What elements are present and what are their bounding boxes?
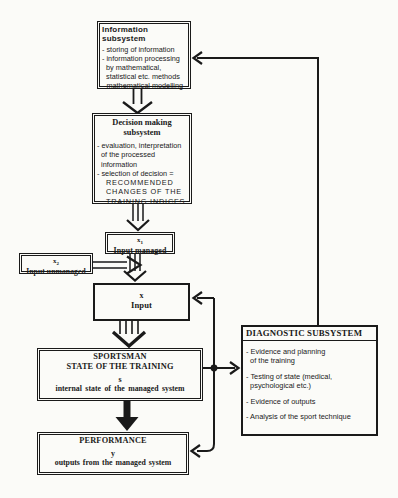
diagnostic-subsystem-title: DIAGNOSTIC SUBSYSTEM [243,327,376,341]
information-subsystem-items: - storing of information - information p… [102,45,188,91]
information-subsystem-title: Information subsystem [102,25,188,43]
performance-caption: outputs from the managed system [38,458,188,468]
arrow-input-unmanaged-to-input [93,257,141,274]
input-unmanaged-variable: x2 [20,257,92,267]
decision-item-recommended: RECOMMENDED CHANGES OF THE TRAINING INDI… [97,178,191,206]
input-box: x Input [93,283,190,321]
performance-variable: y [38,450,188,458]
arrow-decision-to-input-managed [127,204,149,230]
input-unmanaged-box: x2 Input unmanaged [19,253,93,274]
arrow-information-to-decision [123,89,152,113]
decision-item-evaluation: - evaluation, interpretation of the proc… [97,141,191,169]
input-label: Input [95,300,188,311]
decision-making-subsystem-box: Decision making subsystem - evaluation, … [92,113,192,204]
performance-title: PERFORMANCE [38,436,188,446]
input-managed-box: x1 Input managed [105,232,175,254]
junction-dot [211,365,218,372]
decision-making-items: - evaluation, interpretation of the proc… [93,141,191,206]
input-managed-label: Input managed [106,246,174,256]
decision-item-selection: - selection of decision = [97,169,191,178]
sportsman-box: SPORTSMAN STATE OF THE TRAINING s intern… [37,348,203,401]
input-unmanaged-label: Input unmanaged [20,267,92,277]
information-item-processing: - information processing by mathematical… [102,54,188,82]
diagnostic-item-analysis-technique: - Analysis of the sport technique [246,412,374,421]
decision-making-title: Decision making subsystem [93,118,191,137]
diagram-page: Information subsystem - storing of infor… [0,0,398,498]
information-subsystem-box: Information subsystem - storing of infor… [97,21,191,89]
diagnostic-subsystem-items: - Evidence and planning of the training … [243,341,376,422]
diagnostic-item-evidence-planning: - Evidence and planning of the training [246,347,374,366]
information-item-modelling: - mathematical modelling [102,81,188,90]
arrow-input-to-sportsman [113,321,145,346]
information-item-storing: - storing of information [102,45,188,54]
performance-box: PERFORMANCE y outputs from the managed s… [37,432,189,475]
diagnostic-subsystem-box: DIAGNOSTIC SUBSYSTEM - Evidence and plan… [241,325,378,436]
input-managed-variable: x1 [106,236,174,246]
arrow-diagnostic-to-information [194,52,319,325]
input-variable: x [95,291,188,300]
sportsman-title: SPORTSMAN STATE OF THE TRAINING [38,352,202,372]
sportsman-caption: internal state of the managed system [38,384,202,394]
diagnostic-item-testing-state: - Testing of state (medical, psychologic… [246,372,374,391]
arrow-sportsman-to-performance [116,401,139,431]
diagnostic-item-evidence-outputs: - Evidence of outputs [246,397,374,406]
sportsman-variable: s [38,376,202,384]
